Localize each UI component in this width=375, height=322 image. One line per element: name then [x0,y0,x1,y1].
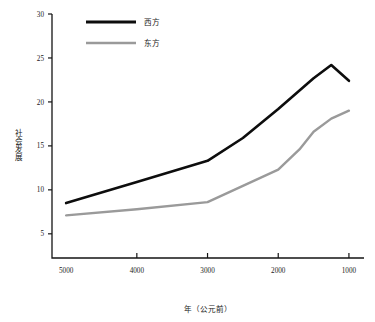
series-line-1 [66,65,349,203]
x-tick-label: 3000 [200,267,215,275]
y-tick-label: 25 [37,55,45,63]
x-tick-label: 5000 [59,267,74,275]
y-axis: 51015202530 [37,11,52,239]
x-tick-label: 1000 [342,267,357,275]
y-tick-label: 10 [37,186,45,194]
x-axis-title: 年（公元前） [184,304,232,314]
x-tick-label: 2000 [271,267,286,275]
x-tick-label: 4000 [130,267,145,275]
series-line-2 [66,111,349,216]
y-tick-label: 5 [40,230,44,238]
chart-container: 5101520253050004000300020001000年（公元前）社会发… [0,0,375,322]
legend: 西方东方 [86,17,160,48]
legend-label-1: 西方 [144,17,160,27]
y-tick-label: 30 [37,11,45,19]
y-tick-label: 20 [37,99,45,107]
y-tick-label: 15 [37,142,45,150]
y-axis-title: 社会发展 [14,128,23,162]
line-chart: 5101520253050004000300020001000年（公元前）社会发… [0,0,375,322]
x-axis: 50004000300020001000 [59,253,357,275]
legend-label-2: 东方 [144,38,160,48]
axis-lines [52,14,364,258]
